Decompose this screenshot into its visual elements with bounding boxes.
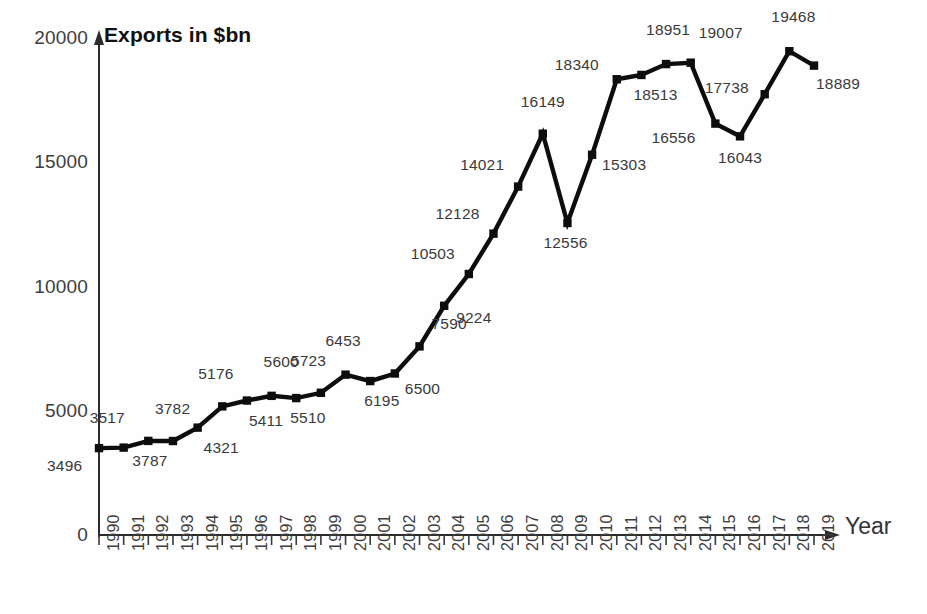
- data-point-marker: [489, 229, 497, 237]
- x-tick-label: 1996: [253, 514, 271, 551]
- data-point-label: 5411: [249, 412, 283, 430]
- data-point-label: 19007: [699, 24, 743, 42]
- x-tick-label: 2015: [721, 514, 739, 551]
- exports-line-chart: Exports in $bn Year 20000150001000050000…: [0, 0, 927, 614]
- data-point-marker: [711, 119, 719, 127]
- data-point-label: 17738: [705, 79, 749, 97]
- y-tick-label: 10000: [0, 276, 88, 298]
- data-point-marker: [736, 132, 744, 140]
- data-point-label: 3517: [90, 409, 125, 427]
- data-point-marker: [810, 61, 818, 69]
- data-point-label: 6500: [405, 380, 440, 398]
- data-point-marker: [662, 60, 670, 68]
- data-point-label: 12556: [543, 234, 587, 252]
- data-point-marker: [539, 129, 547, 137]
- x-tick-label: 1995: [228, 514, 246, 551]
- data-point-marker: [119, 443, 127, 451]
- x-tick-label: 2007: [524, 514, 542, 551]
- data-point-label: 5510: [290, 409, 325, 427]
- data-point-label: 9224: [456, 309, 491, 327]
- data-point-label: 5176: [198, 365, 233, 383]
- x-tick-label: 1994: [204, 514, 222, 551]
- data-point-marker: [95, 444, 103, 452]
- data-point-marker: [292, 394, 300, 402]
- data-point-label: 18340: [555, 56, 599, 74]
- data-point-marker: [613, 75, 621, 83]
- data-point-marker: [193, 423, 201, 431]
- data-point-marker: [514, 182, 522, 190]
- x-tick-label: 2018: [795, 514, 813, 551]
- data-point-label: 4321: [204, 439, 239, 457]
- data-point-label: 3782: [155, 400, 190, 418]
- data-point-marker: [391, 369, 399, 377]
- data-point-label: 5723: [291, 352, 326, 370]
- data-point-marker: [169, 437, 177, 445]
- y-axis: [94, 30, 104, 537]
- data-point-marker: [588, 151, 596, 159]
- x-tick-label: 2006: [499, 514, 517, 551]
- data-point-marker: [637, 71, 645, 79]
- data-point-marker: [243, 396, 251, 404]
- x-tick-label: 2001: [376, 514, 394, 551]
- data-point-label: 12128: [435, 205, 479, 223]
- data-point-marker: [366, 377, 374, 385]
- x-tick-label: 2004: [450, 514, 468, 551]
- y-tick-label: 5000: [0, 400, 88, 422]
- data-point-marker: [144, 437, 152, 445]
- x-tick-label: 1992: [154, 514, 172, 551]
- data-point-marker: [563, 219, 571, 227]
- x-tick-label: 2013: [672, 514, 690, 551]
- data-point-label: 18513: [633, 86, 677, 104]
- x-tick-label: 2005: [475, 514, 493, 551]
- data-point-marker: [415, 342, 423, 350]
- data-point-marker: [317, 389, 325, 397]
- x-tick-label: 2009: [573, 514, 591, 551]
- x-tick-label: 2008: [549, 514, 567, 551]
- x-tick-label: 2002: [401, 514, 419, 551]
- data-point-marker: [440, 302, 448, 310]
- data-point-marker: [760, 90, 768, 98]
- data-point-marker: [218, 402, 226, 410]
- data-point-marker: [341, 370, 349, 378]
- data-point-marker: [465, 270, 473, 278]
- x-tick-label: 1990: [105, 514, 123, 551]
- x-tick-label: 1993: [179, 514, 197, 551]
- x-tick-label: 1991: [130, 514, 148, 551]
- x-tick-label: 2012: [647, 514, 665, 551]
- x-tick-label: 2000: [352, 514, 370, 551]
- data-point-marker: [267, 392, 275, 400]
- data-point-label: 3787: [132, 452, 167, 470]
- x-tick-label: 1999: [327, 514, 345, 551]
- data-point-label: 18889: [816, 75, 860, 93]
- data-point-label: 10503: [411, 245, 455, 263]
- x-tick-label: 2011: [623, 515, 641, 551]
- data-point-label: 18951: [646, 21, 690, 39]
- data-point-label: 15303: [602, 156, 646, 174]
- x-tick-label: 1998: [302, 514, 320, 551]
- data-point-marker: [687, 58, 695, 66]
- data-point-label: 19468: [771, 8, 815, 26]
- data-point-label: 3496: [47, 457, 82, 475]
- x-tick-label: 2016: [746, 514, 764, 551]
- x-tick-label: 2014: [697, 514, 715, 551]
- series-line: [99, 51, 814, 448]
- y-tick-label: 15000: [0, 151, 88, 173]
- data-point-marker: [785, 47, 793, 55]
- y-tick-label: 0: [0, 524, 88, 546]
- data-point-label: 16043: [718, 149, 762, 167]
- data-point-label: 16149: [521, 93, 565, 111]
- data-point-label: 6453: [326, 332, 361, 350]
- x-tick-label: 2017: [771, 514, 789, 551]
- y-tick-label: 20000: [0, 27, 88, 49]
- data-point-label: 16556: [651, 129, 695, 147]
- data-point-label: 6195: [364, 392, 399, 410]
- x-tick-label: 1997: [278, 514, 296, 551]
- x-tick-label: 2019: [820, 514, 838, 551]
- x-tick-label: 2010: [598, 514, 616, 551]
- data-point-label: 14021: [460, 156, 504, 174]
- x-tick-label: 2003: [426, 514, 444, 551]
